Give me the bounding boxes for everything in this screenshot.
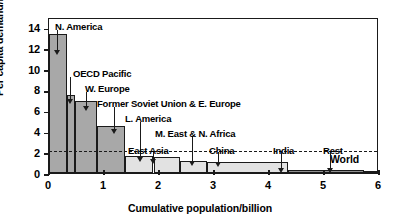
annotation-leader-n-america	[57, 30, 58, 50]
y-tick-mark	[44, 70, 49, 72]
x-tick-mark	[48, 170, 50, 175]
y-tick-label: 12	[28, 44, 40, 55]
x-tick-label: 5	[313, 180, 333, 191]
annotation-leader-india	[281, 152, 282, 168]
bar-india	[288, 170, 363, 173]
x-tick-label: 2	[148, 180, 168, 191]
y-axis-title: Per capita demand/MW h	[0, 0, 5, 96]
x-tick-mark	[378, 170, 380, 175]
annotation-leader-w-europe	[86, 92, 87, 106]
annotation-label-china: China	[209, 146, 234, 156]
annotation-leader-rest	[330, 152, 331, 168]
y-tick-label: 6	[34, 106, 40, 117]
annotation-label-l-america: L. America	[125, 114, 171, 124]
x-tick-label: 6	[368, 180, 388, 191]
y-tick-mark	[44, 49, 49, 51]
chart-figure: 02468101214 0123456 Per capita demand/MW…	[0, 0, 400, 224]
y-tick-label: 14	[28, 23, 40, 34]
annotation-leader-former-soviet-union-e-europe	[114, 107, 115, 129]
x-tick-label: 4	[258, 180, 278, 191]
y-tick-mark	[44, 153, 49, 155]
x-tick-mark	[268, 170, 270, 175]
annotation-label-rest: Rest	[323, 146, 343, 156]
x-tick-mark	[323, 170, 325, 175]
annotation-label-india: India	[273, 146, 294, 156]
x-tick-label: 0	[38, 180, 58, 191]
annotation-label-m-east-n-africa: M. East & N. Africa	[155, 129, 235, 139]
y-tick-label: 10	[28, 65, 40, 76]
bar-w-europe	[75, 101, 97, 173]
annotation-label-east-asia: East Asia	[128, 146, 169, 156]
bar-rest	[364, 171, 379, 173]
y-tick-label: 2	[34, 148, 40, 159]
x-tick-label: 1	[93, 180, 113, 191]
y-tick-label: 0	[34, 169, 40, 180]
y-tick-mark	[44, 112, 49, 114]
annotation-label-former-soviet-union-e-europe: Former Soviet Union & E. Europe	[97, 99, 241, 109]
annotation-label-oecd-pacific: OECD Pacific	[73, 69, 131, 79]
y-tick-mark	[44, 91, 49, 93]
x-tick-mark	[103, 170, 105, 175]
annotation-leader-east-asia	[153, 152, 154, 159]
y-tick-label: 8	[34, 85, 40, 96]
x-tick-mark	[158, 170, 160, 175]
annotation-label-w-europe: W. Europe	[85, 84, 130, 94]
x-tick-mark	[213, 170, 215, 175]
y-tick-mark	[44, 133, 49, 135]
x-axis-title: Cumulative population/billion	[0, 202, 400, 214]
annotation-leader-oecd-pacific	[70, 77, 71, 99]
annotation-label-n-america: N. America	[55, 22, 102, 32]
y-tick-mark	[44, 29, 49, 31]
y-tick-label: 4	[34, 127, 40, 138]
bar-oecd-pacific	[67, 95, 75, 173]
annotation-leader-china	[218, 152, 219, 162]
x-tick-label: 3	[203, 180, 223, 191]
annotation-leader-m-east-n-africa	[192, 137, 193, 161]
